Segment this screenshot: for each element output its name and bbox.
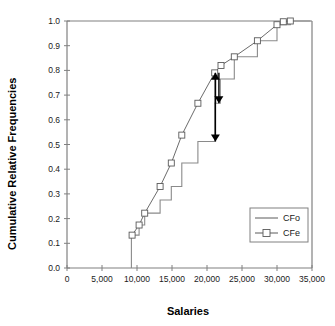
y-tick-label: 0.7	[48, 90, 60, 100]
data-point-marker	[274, 22, 280, 28]
y-tick-label: 0.3	[48, 189, 60, 199]
data-point-marker	[280, 19, 286, 25]
data-marker-layer	[129, 18, 293, 238]
x-tick-label: 15,000	[159, 274, 185, 284]
x-tick-label: 0	[65, 274, 70, 284]
y-axis-title: Cumulative Relative Frequencies	[6, 78, 18, 250]
series-line-cfe	[132, 21, 290, 235]
data-point-marker	[136, 222, 142, 228]
y-tick-label: 0.1	[48, 238, 60, 248]
y-tick-label: 0.6	[48, 115, 60, 125]
data-point-marker	[157, 183, 163, 189]
data-point-marker	[231, 54, 237, 60]
legend-label-cfe: CFe	[283, 228, 300, 238]
data-point-marker	[142, 210, 148, 216]
data-point-marker	[168, 160, 174, 166]
x-tick-label: 20,000	[194, 274, 220, 284]
y-tick-label: 1.0	[48, 16, 60, 26]
y-tick-label: 0.9	[48, 41, 60, 51]
annotation-layer	[211, 73, 224, 142]
data-point-marker	[129, 232, 135, 238]
chart-canvas: Cumulative Relative Frequencies Salaries…	[0, 0, 335, 326]
y-tick-label: 0.8	[48, 65, 60, 75]
chart-figure: Cumulative Relative Frequencies Salaries…	[0, 0, 335, 326]
y-tick-label: 0.0	[48, 263, 60, 273]
y-tick-label: 0.4	[48, 164, 60, 174]
x-tick-label: 25,000	[229, 274, 255, 284]
x-tick-label: 35,000	[299, 274, 325, 284]
data-point-marker	[254, 38, 260, 44]
chart-legend: CFo CFe	[250, 208, 308, 242]
x-tick-label: 30,000	[264, 274, 290, 284]
y-axis-tick-labels: 0.00.10.20.30.40.50.60.70.80.91.0	[48, 16, 60, 273]
x-tick-label: 10,000	[124, 274, 150, 284]
x-tick-label: 5,000	[91, 274, 113, 284]
legend-label-cfo: CFo	[283, 213, 300, 223]
legend-marker-cfe	[263, 230, 270, 237]
x-axis-title: Salaries	[167, 305, 209, 317]
y-tick-label: 0.2	[48, 214, 60, 224]
data-point-marker	[179, 132, 185, 138]
data-point-marker	[287, 18, 293, 24]
y-tick-label: 0.5	[48, 140, 60, 150]
x-axis-tick-labels: 05,00010,00015,00020,00025,00030,00035,0…	[65, 274, 326, 284]
arrow-head	[211, 135, 220, 142]
data-point-marker	[218, 62, 224, 68]
data-point-marker	[195, 100, 201, 106]
